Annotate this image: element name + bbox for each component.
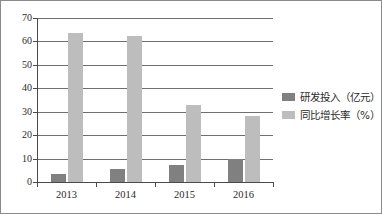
y-axis-label-20: 20 [1,130,32,140]
y-axis-tick-10 [33,159,37,160]
legend-item-0[interactable]: 研发投入（亿元） [282,89,380,105]
y-axis-label-70: 70 [1,13,32,23]
y-axis-label-40: 40 [1,83,32,93]
y-axis-tick-60 [33,41,37,42]
y-axis-tick-30 [33,112,37,113]
y-axis-tick-50 [33,65,37,66]
bar-2016-series-0[interactable] [228,159,243,182]
y-axis-label-10: 10 [1,154,32,164]
y-axis-line [37,18,38,183]
x-axis-label-2013: 2013 [56,189,77,201]
y-axis-label-60: 60 [1,36,32,46]
bar-group-2016 [37,18,273,182]
y-axis-label-0: 0 [1,177,32,187]
legend-swatch-icon-1 [282,111,295,119]
bar-groups [37,18,273,182]
legend-label-0: 研发投入（亿元） [300,91,380,103]
chart-figure: 0102030405060702013201420152016 研发投入（亿元）… [0,0,382,214]
legend-swatch-icon-0 [282,93,295,101]
x-axis-label-2014: 2014 [115,189,136,201]
chart-legend: 研发投入（亿元） 同比增长率（%） [282,89,380,125]
x-axis-tick-2015 [155,182,156,187]
x-axis-tick-2014 [96,182,97,187]
x-axis-label-2015: 2015 [174,189,195,201]
legend-label-1: 同比增长率（%） [300,109,380,121]
y-axis-tick-40 [33,88,37,89]
x-axis-end-tick-1 [273,182,274,187]
x-axis-tick-2016 [214,182,215,187]
legend-item-1[interactable]: 同比增长率（%） [282,107,380,123]
y-axis-label-30: 30 [1,107,32,117]
y-axis-label-50: 50 [1,60,32,70]
y-axis-tick-70 [33,18,37,19]
bar-2016-series-1[interactable] [245,116,260,182]
x-axis-end-tick-0 [37,182,38,187]
y-axis-tick-20 [33,135,37,136]
plot-area [37,18,273,182]
x-axis-label-2016: 2016 [233,189,254,201]
